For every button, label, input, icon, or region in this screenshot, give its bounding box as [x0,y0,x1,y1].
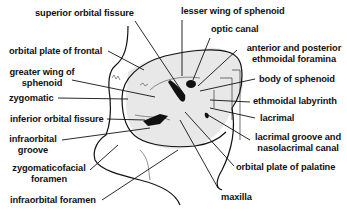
label-infraorbital-groove: infraorbital groove [6,134,60,156]
label-infraorbital-foramen: infraorbital foramen [10,195,96,206]
optic-canal-shape [186,80,196,88]
label-zygomaticofacial-foramen: zygomaticofacial foramen [6,163,92,185]
label-superior-orbital-fissure: superior orbital fissure [35,8,134,19]
label-greater-wing-line2: sphenoid [7,78,77,89]
label-optic-canal: optic canal [211,24,258,35]
label-lacrimal-groove-line2: nasolacrimal canal [250,143,346,154]
label-body-of-sphenoid: body of sphenoid [259,74,335,85]
label-greater-wing-of-sphenoid: greater wing of sphenoid [7,67,77,89]
label-orbital-plate-of-frontal: orbital plate of frontal [9,46,102,57]
label-lacrimal: lacrimal [260,113,294,124]
label-ethmoidal-foramina: anterior and posterior ethmoidal foramin… [240,43,347,65]
label-zygomaticofacial-line2: foramen [6,174,92,185]
label-greater-wing-line1: greater wing of [7,67,77,78]
label-infraorbital-groove-line2: groove [6,145,60,156]
label-ethmoidal-labyrinth: ethmoidal labyrinth [253,96,337,107]
label-lacrimal-groove: lacrimal groove and nasolacrimal canal [250,132,346,154]
label-ethmoidal-foramina-line2: ethmoidal foramina [240,54,347,65]
label-maxilla: maxilla [221,192,252,203]
label-zygomaticofacial-line1: zygomaticofacial [6,163,92,174]
label-orbital-plate-of-palatine: orbital plate of palatine [236,162,335,173]
label-infraorbital-groove-line1: infraorbital [6,134,60,145]
label-lacrimal-groove-line1: lacrimal groove and [250,132,346,143]
label-zygomatic: zygomatic [9,93,54,104]
label-inferior-orbital-fissure: inferior orbital fissure [10,114,104,125]
label-ethmoidal-foramina-line1: anterior and posterior [240,43,347,54]
label-lesser-wing-of-sphenoid: lesser wing of sphenoid [181,6,285,17]
